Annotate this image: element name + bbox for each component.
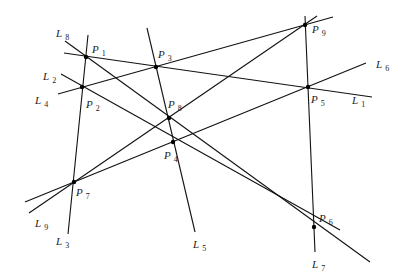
line-label-l9: L9 [34,217,48,232]
line-label-l4: L4 [34,94,48,109]
point-label-p9: P9 [311,23,326,38]
point-p1 [84,55,88,59]
point-p7 [72,180,76,184]
point-p3 [154,65,158,69]
line-label-l5: L5 [192,238,206,253]
line-label-l7: L7 [311,258,325,273]
point-label-p6: P6 [318,212,333,227]
point-label-p1: P1 [91,43,106,58]
point-p6 [312,225,316,229]
line-label-l6: L6 [375,58,389,73]
point-label-p8: P8 [167,98,182,113]
line-label-l3: L3 [55,235,69,250]
point-label-p3: P3 [157,48,172,63]
lines-layer [25,16,372,262]
line-label-l8: L8 [55,27,69,42]
line-l8 [65,41,370,262]
line-configuration-diagram: L1L2L3L4L5L6L7L8L9P1P2P3P4P5P6P7P8P9 [0,0,409,278]
point-p5 [306,85,310,89]
line-l1 [64,53,372,97]
point-label-p2: P2 [85,98,100,113]
point-p4 [171,140,175,144]
line-l2 [61,74,340,230]
point-p2 [80,85,84,89]
point-label-p7: P7 [75,186,90,201]
labels-layer: L1L2L3L4L5L6L7L8L9P1P2P3P4P5P6P7P8P9 [34,23,389,273]
point-p9 [303,23,307,27]
points-layer [72,23,316,229]
point-p8 [167,116,171,120]
line-l3 [68,35,88,234]
line-label-l2: L2 [42,70,56,85]
line-l4 [58,17,333,94]
point-label-p5: P5 [310,93,325,108]
